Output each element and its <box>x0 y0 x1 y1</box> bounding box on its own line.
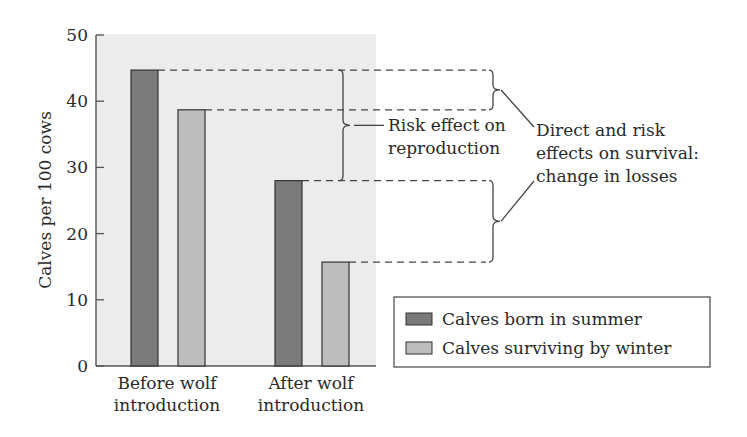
y-tick-label: 10 <box>66 290 88 310</box>
legend-swatch-born-summer <box>406 313 432 325</box>
annotations: Risk effect onreproductionDirect and ris… <box>388 115 699 186</box>
annotation-risk-reproduction: Risk effect on <box>388 115 506 135</box>
legend-label: Calves surviving by winter <box>442 338 672 358</box>
legend-swatch-surviving-winter <box>406 342 432 354</box>
bar-born-summer-before <box>131 70 158 366</box>
bar-surviving-winter-before <box>178 110 205 366</box>
y-tick-label: 50 <box>66 25 88 45</box>
x-category-labels: Before wolfintroductionAfter wolfintrodu… <box>114 373 364 415</box>
y-tick-label: 0 <box>77 356 88 376</box>
x-category-label: introduction <box>258 395 364 415</box>
annotation-survival: change in losses <box>536 166 678 186</box>
y-axis-label: Calves per 100 cows <box>35 111 55 289</box>
brace-survival-before <box>489 70 500 110</box>
annotation-survival: effects on survival: <box>536 143 699 163</box>
x-category-label: Before wolf <box>117 373 218 393</box>
annotation-risk-reproduction: reproduction <box>388 138 500 158</box>
brace-survival-after <box>489 181 500 262</box>
x-category-label: introduction <box>114 395 220 415</box>
y-tick-label: 40 <box>66 91 88 111</box>
annotation-survival: Direct and risk <box>536 120 666 140</box>
bar-surviving-winter-after <box>322 262 349 366</box>
chart-figure: 01020304050 Calves per 100 cows Before w… <box>0 0 747 437</box>
y-tick-label: 30 <box>66 157 88 177</box>
legend: Calves born in summerCalves surviving by… <box>394 297 710 367</box>
x-category-label: After wolf <box>267 373 355 393</box>
y-tick-label: 20 <box>66 224 88 244</box>
bar-born-summer-after <box>275 181 302 366</box>
legend-label: Calves born in summer <box>442 309 643 329</box>
